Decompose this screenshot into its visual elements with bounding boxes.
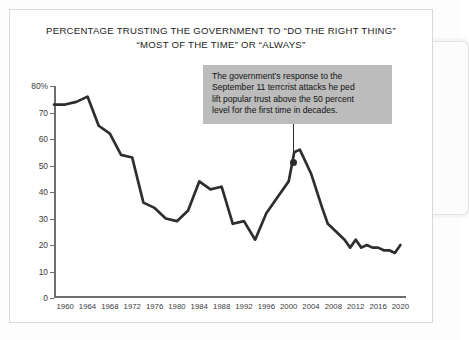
- annotation-line-4: level for the first time in decades.: [212, 105, 384, 116]
- x-tick-label: 2012: [347, 302, 364, 311]
- x-tick-label: 1992: [235, 302, 252, 311]
- y-tick-label: 0: [43, 293, 48, 303]
- y-tick-label: 70: [39, 108, 48, 118]
- x-tick-label: 2000: [280, 302, 297, 311]
- x-tick-label: 1988: [213, 302, 230, 311]
- y-tick-label: 20: [39, 240, 48, 250]
- annotation-callout: The government’s response to the Septemb…: [203, 65, 392, 124]
- x-tick-label: 1980: [168, 302, 185, 311]
- x-tick-label: 1960: [56, 302, 73, 311]
- x-tick-label: 1996: [258, 302, 275, 311]
- x-tick-label: 1984: [191, 302, 208, 311]
- x-tick-label: 1972: [124, 302, 141, 311]
- y-tick-label: 60: [39, 134, 48, 144]
- callout-anchor-dot: [290, 159, 297, 166]
- annotation-line-1: The government’s response to the: [212, 71, 384, 82]
- x-tick-label: 2016: [369, 302, 386, 311]
- callout-leader-line: [293, 121, 294, 162]
- chart-title-line-2: “MOST OF THE TIME” OR “ALWAYS”: [10, 38, 432, 52]
- x-tick-label: 1976: [146, 302, 163, 311]
- annotation-line-3: lift popular trust above the 50 percent: [212, 94, 384, 105]
- x-tick-label: 1964: [79, 302, 96, 311]
- chart-title-line-1: PERCENTAGE TRUSTING THE GOVERNMENT TO “D…: [46, 25, 396, 36]
- x-tick-label: 2008: [325, 302, 342, 311]
- x-tick-label: 2004: [302, 302, 319, 311]
- y-tick-label: 30: [39, 214, 48, 224]
- annotation-line-2: September 11 terrcrist attacks he ped: [212, 82, 384, 93]
- side-panel-edge: [427, 41, 469, 215]
- y-tick-label: 50: [39, 161, 48, 171]
- chart-card: PERCENTAGE TRUSTING THE GOVERNMENT TO “D…: [9, 9, 433, 323]
- y-tick-mark: [50, 298, 54, 299]
- y-tick-label: 40: [39, 187, 48, 197]
- x-tick-label: 1968: [101, 302, 118, 311]
- chart-title: PERCENTAGE TRUSTING THE GOVERNMENT TO “D…: [10, 24, 432, 51]
- y-tick-label: 10: [39, 267, 48, 277]
- y-tick-label: 80%: [31, 81, 48, 91]
- x-tick-label: 2020: [392, 302, 409, 311]
